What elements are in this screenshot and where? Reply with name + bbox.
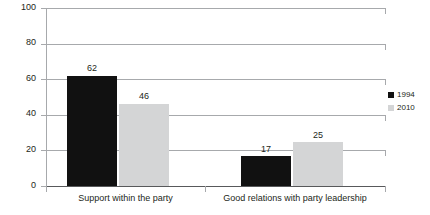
legend-label-2010: 2010 bbox=[397, 104, 415, 112]
y-axis-tick-label-20: 20 bbox=[26, 145, 36, 154]
bar-2010-good-relations-with-party-leadership bbox=[293, 142, 343, 187]
right-tick-mark bbox=[385, 8, 386, 14]
x-axis-line bbox=[46, 186, 385, 187]
x-axis-category-label-good-relations-with-party-leadership: Good relations with party leadership bbox=[205, 193, 385, 203]
legend-swatch-icon-2010 bbox=[388, 105, 394, 111]
bar-1994-support-within-the-party bbox=[67, 76, 117, 186]
legend-item-2010: 2010 bbox=[388, 101, 415, 114]
x-axis-category-label-support-within-the-party: Support within the party bbox=[46, 193, 205, 203]
y-axis-tick-label-0: 0 bbox=[31, 181, 36, 190]
right-tick-mark bbox=[385, 150, 386, 156]
y-axis-tick-label-60: 60 bbox=[26, 74, 36, 83]
legend: 1994 2010 bbox=[388, 88, 415, 114]
legend-swatch-icon-1994 bbox=[388, 92, 394, 98]
right-tick-mark bbox=[385, 79, 386, 85]
bar-2010-support-within-the-party bbox=[119, 104, 169, 186]
legend-label-1994: 1994 bbox=[397, 91, 415, 99]
gridline-100 bbox=[46, 8, 385, 9]
bar-value-label-25: 25 bbox=[293, 131, 343, 140]
y-axis-tick-label-80: 80 bbox=[26, 38, 36, 47]
y-axis-tick-label-100: 100 bbox=[21, 3, 36, 12]
right-tick-mark bbox=[385, 115, 386, 121]
x-axis-tick-mark bbox=[46, 186, 47, 192]
y-axis-tick-label-40: 40 bbox=[26, 109, 36, 118]
right-tick-mark bbox=[385, 44, 386, 50]
plot-area bbox=[46, 8, 385, 186]
bar-value-label-46: 46 bbox=[119, 92, 169, 101]
gridline-80 bbox=[46, 44, 385, 45]
legend-item-1994: 1994 bbox=[388, 88, 415, 101]
x-axis-tick-mark bbox=[205, 186, 206, 192]
bar-chart: 100 80 60 40 20 0 62 46 17 25 Supp bbox=[0, 0, 430, 215]
x-axis-tick-mark bbox=[385, 186, 386, 192]
bar-value-label-17: 17 bbox=[241, 145, 291, 154]
bar-1994-good-relations-with-party-leadership bbox=[241, 156, 291, 186]
bar-value-label-62: 62 bbox=[67, 64, 117, 73]
